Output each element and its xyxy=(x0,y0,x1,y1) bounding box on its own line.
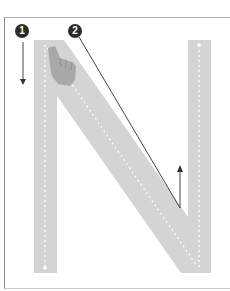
step-1-badge: 1 xyxy=(15,24,29,38)
end-dot xyxy=(197,43,201,47)
step-2-badge: 2 xyxy=(68,24,82,38)
letter-n-tracing xyxy=(0,0,230,291)
end-dot xyxy=(43,266,47,270)
stroke-1-arrow xyxy=(20,42,26,85)
